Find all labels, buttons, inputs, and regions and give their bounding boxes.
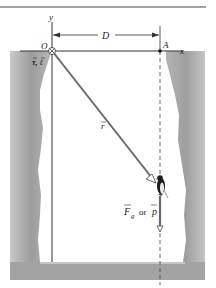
origin-label: O [41, 41, 48, 51]
position-vector-arrowhead-icon [146, 174, 156, 183]
svg-text:F: F [123, 206, 131, 217]
svg-text:p: p [151, 206, 157, 217]
point-a-label: A [162, 40, 169, 50]
svg-text:g: g [131, 212, 135, 220]
force-momentum-label: F g or p [123, 205, 157, 220]
y-axis-label: y [48, 12, 53, 22]
arrowhead-right-icon [152, 33, 159, 38]
position-vector-r [53, 52, 152, 178]
penguin-torque-diagram: x y D O r τ, ℓ A F g or p [0, 0, 216, 288]
arrowhead-left-icon [53, 33, 60, 38]
x-axis-label: x [179, 46, 184, 56]
torque-momentum-label: τ, ℓ [32, 58, 44, 67]
position-vector-label: r [101, 121, 105, 131]
gravity-vector-arrowhead-icon [157, 226, 163, 232]
distance-label: D [101, 30, 110, 41]
right-rock-wall [166, 51, 205, 262]
point-a-marker [158, 49, 162, 53]
svg-text:or: or [139, 207, 147, 217]
left-rock-wall [10, 51, 52, 262]
penguin-icon [156, 175, 169, 198]
rock-floor [10, 262, 205, 280]
